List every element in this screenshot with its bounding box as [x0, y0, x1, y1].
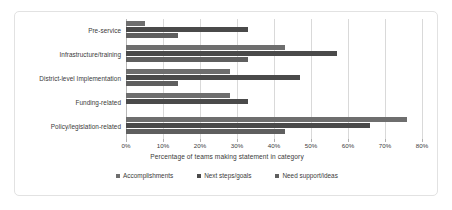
- x-tick-label: 60%: [342, 142, 354, 149]
- x-tick-label: 0%: [122, 142, 131, 149]
- x-tick-label: 20%: [194, 142, 206, 149]
- bar[interactable]: [126, 27, 248, 32]
- bar[interactable]: [126, 123, 370, 128]
- x-axis-ticks: 0%10%20%30%40%50%60%70%80%: [126, 139, 422, 151]
- legend-swatch-icon: [116, 174, 120, 178]
- chart-plot-wrapper: Pre-serviceInfrastructure/trainingDistri…: [15, 12, 439, 197]
- bar[interactable]: [126, 69, 230, 74]
- gridline: [422, 19, 423, 139]
- bar[interactable]: [126, 93, 230, 98]
- bar[interactable]: [126, 81, 178, 86]
- bar-group: [126, 19, 422, 43]
- bar[interactable]: [126, 117, 407, 122]
- category-label: Policy/legislation-related: [51, 116, 121, 138]
- plot-area: [126, 19, 422, 139]
- category-axis-labels: Pre-serviceInfrastructure/trainingDistri…: [15, 19, 125, 139]
- x-tick-label: 50%: [305, 142, 317, 149]
- chart-container: Pre-serviceInfrastructure/trainingDistri…: [14, 11, 438, 196]
- x-tick-label: 70%: [379, 142, 391, 149]
- legend-item[interactable]: Accomplishments: [116, 172, 173, 179]
- bar-group: [126, 67, 422, 91]
- bar[interactable]: [126, 21, 145, 26]
- legend-swatch-icon: [197, 174, 201, 178]
- x-tick-label: 10%: [157, 142, 169, 149]
- x-tick-label: 40%: [268, 142, 280, 149]
- category-label: District-level Implementation: [39, 68, 121, 90]
- category-label: Funding-related: [75, 92, 121, 114]
- x-axis-title: Percentage of teams making statement in …: [15, 153, 439, 160]
- bar-group: [126, 115, 422, 139]
- bar[interactable]: [126, 129, 285, 134]
- bar-group: [126, 43, 422, 67]
- bar[interactable]: [126, 51, 337, 56]
- category-label: Pre-service: [88, 20, 121, 42]
- bar[interactable]: [126, 33, 178, 38]
- bar-group: [126, 91, 422, 115]
- bar[interactable]: [126, 45, 285, 50]
- legend-item[interactable]: Next steps/goals: [197, 172, 251, 179]
- bar[interactable]: [126, 75, 300, 80]
- legend-label: Next steps/goals: [204, 172, 251, 179]
- x-tick-label: 30%: [231, 142, 243, 149]
- chart-legend: AccomplishmentsNext steps/goalsNeed supp…: [15, 172, 439, 179]
- x-tick-label: 80%: [416, 142, 428, 149]
- bar[interactable]: [126, 57, 248, 62]
- legend-swatch-icon: [275, 174, 279, 178]
- category-label: Infrastructure/training: [59, 44, 121, 66]
- legend-label: Accomplishments: [123, 172, 173, 179]
- legend-label: Need support/ideas: [282, 172, 337, 179]
- bar[interactable]: [126, 99, 248, 104]
- legend-item[interactable]: Need support/ideas: [275, 172, 337, 179]
